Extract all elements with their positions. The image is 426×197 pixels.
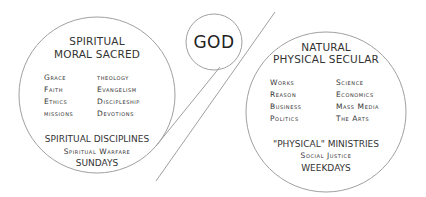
list-item: Works (270, 77, 302, 89)
list-item: Business (270, 101, 302, 113)
right-footer-1: "PHYSICAL" MINISTRIES (273, 140, 379, 149)
list-item: theology (97, 72, 140, 84)
divider-line-upper (156, 67, 220, 146)
list-item: Economics (336, 89, 379, 101)
right-list-2: Science Economics Mass Media The Arts (336, 77, 379, 125)
list-item: Grace (44, 72, 73, 84)
list-item: Evangelism (97, 84, 140, 96)
left-footer-2: Spiritual Warfare (64, 148, 130, 156)
left-footer-3: SUNDAYS (76, 159, 118, 168)
list-item: Reason (270, 89, 302, 101)
list-item: Politics (270, 113, 302, 125)
right-heading-1: NATURAL (301, 42, 351, 53)
right-footer-3: WEEKDAYS (301, 164, 351, 173)
list-item: Discipleship (97, 96, 140, 108)
list-item: Devotions (97, 108, 140, 120)
left-list-2: theology Evangelism Discipleship Devotio… (97, 72, 140, 120)
left-heading-2: MORAL SACRED (54, 49, 140, 60)
god-label: GOD (193, 34, 234, 51)
right-list-1: Works Reason Business Politics (270, 77, 302, 125)
left-footer-1: SPIRITUAL DISCIPLINES (45, 135, 149, 144)
list-item: Ethics (44, 96, 73, 108)
list-item: Mass Media (336, 101, 379, 113)
list-item: The Arts (336, 113, 379, 125)
right-heading-2: PHYSICAL SECULAR (273, 54, 379, 65)
list-item: Faith (44, 84, 73, 96)
list-item: missions (44, 108, 73, 120)
list-item: Science (336, 77, 379, 89)
left-list-1: Grace Faith Ethics missions (44, 72, 73, 120)
right-footer-2: Social Justice (301, 152, 352, 160)
left-heading-1: SPIRITUAL (69, 36, 124, 47)
